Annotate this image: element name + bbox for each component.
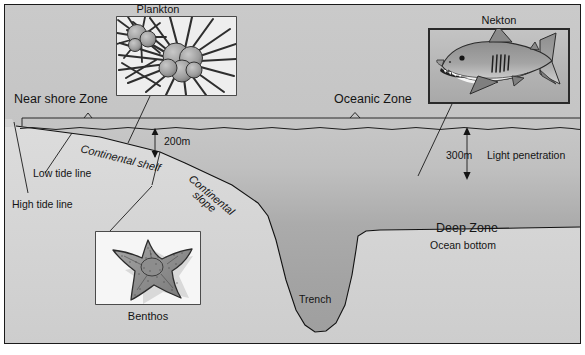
label-deep-zone: Deep Zone (436, 221, 498, 235)
label-ocean-bottom: Ocean bottom (430, 239, 496, 251)
label-near-shore-zone: Near shore Zone (14, 92, 108, 106)
plankton-inset (117, 17, 236, 95)
label-low-tide-line: Low tide line (33, 167, 92, 179)
caption-benthos: Benthos (128, 310, 169, 322)
diagram-canvas: Near shore Zone Oceanic Zone Deep Zone O… (0, 0, 585, 355)
caption-nekton: Nekton (482, 14, 517, 26)
benthos-inset (96, 232, 200, 304)
label-trench: Trench (299, 293, 331, 305)
nekton-inset (429, 26, 569, 103)
label-high-tide-line: High tide line (12, 198, 73, 210)
label-shelf-depth: 200m (164, 135, 191, 147)
label-oceanic-zone: Oceanic Zone (334, 92, 412, 106)
ocean-zones-diagram: Near shore Zone Oceanic Zone Deep Zone O… (0, 0, 585, 355)
label-light-depth: 300m (446, 149, 473, 161)
plankton-illustration (117, 17, 236, 95)
label-light-penetration: Light penetration (487, 149, 565, 161)
benthos-illustration (96, 232, 200, 304)
